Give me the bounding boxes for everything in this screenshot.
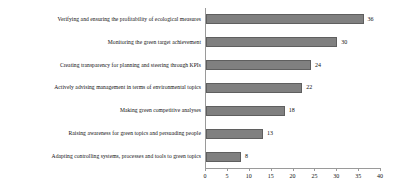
bar-group: 30 bbox=[206, 37, 347, 47]
bar-value-label: 18 bbox=[289, 107, 295, 114]
bar-group: 8 bbox=[206, 152, 248, 162]
table-row: Raising awareness for green topics and p… bbox=[0, 122, 400, 145]
x-axis-tick-label: 15 bbox=[268, 172, 274, 180]
bar-group: 18 bbox=[206, 106, 295, 116]
category-label: Adapting controlling systems, processes … bbox=[5, 153, 201, 160]
bar-value-label: 30 bbox=[341, 39, 347, 46]
bar bbox=[206, 14, 364, 24]
bar bbox=[206, 106, 285, 116]
bar-group: 22 bbox=[206, 83, 312, 93]
x-axis-tick-label: 5 bbox=[225, 172, 228, 180]
x-axis-tick bbox=[249, 168, 250, 171]
x-axis-tick bbox=[205, 168, 206, 171]
bar-value-label: 36 bbox=[368, 16, 374, 23]
x-axis-tick-label: 25 bbox=[311, 172, 317, 180]
x-axis-tick-label: 10 bbox=[246, 172, 252, 180]
x-axis-tick-label: 0 bbox=[204, 172, 207, 180]
x-axis-tick-label: 20 bbox=[290, 172, 296, 180]
bar-chart: Verifying and ensuring the profitability… bbox=[0, 0, 400, 195]
x-axis-tick-label: 40 bbox=[377, 172, 383, 180]
table-row: Creating transparency for planning and s… bbox=[0, 54, 400, 77]
x-axis-tick bbox=[293, 168, 294, 171]
table-row: Verifying and ensuring the profitability… bbox=[0, 8, 400, 31]
bar-value-label: 8 bbox=[245, 153, 248, 160]
category-label: Creating transparency for planning and s… bbox=[5, 62, 201, 69]
category-label: Verifying and ensuring the profitability… bbox=[5, 16, 201, 23]
bar-group: 13 bbox=[206, 129, 273, 139]
bar-group: 36 bbox=[206, 14, 374, 24]
bar-value-label: 24 bbox=[315, 62, 321, 69]
bar bbox=[206, 37, 337, 47]
x-axis-tick bbox=[358, 168, 359, 171]
x-axis-tick-label: 30 bbox=[333, 172, 339, 180]
x-axis-tick bbox=[336, 168, 337, 171]
bar-value-label: 13 bbox=[267, 130, 273, 137]
category-label: Monitoring the green target achievement bbox=[5, 39, 201, 46]
x-axis: 0510152025303540 bbox=[205, 168, 380, 194]
category-label: Actively advising management in terms of… bbox=[5, 84, 201, 91]
bar-group: 24 bbox=[206, 60, 321, 70]
category-label: Making green competitive analyses bbox=[5, 107, 201, 114]
table-row: Making green competitive analyses 18 bbox=[0, 99, 400, 122]
x-axis-tick bbox=[227, 168, 228, 171]
bar bbox=[206, 129, 263, 139]
bar bbox=[206, 83, 302, 93]
table-row: Adapting controlling systems, processes … bbox=[0, 145, 400, 168]
bar bbox=[206, 60, 311, 70]
x-axis-tick-label: 35 bbox=[355, 172, 361, 180]
category-label: Raising awareness for green topics and p… bbox=[5, 130, 201, 137]
bar bbox=[206, 152, 241, 162]
x-axis-tick bbox=[271, 168, 272, 171]
table-row: Actively advising management in terms of… bbox=[0, 77, 400, 100]
x-axis-tick bbox=[314, 168, 315, 171]
x-axis-tick bbox=[380, 168, 381, 171]
bar-value-label: 22 bbox=[306, 84, 312, 91]
table-row: Monitoring the green target achievement … bbox=[0, 31, 400, 54]
bar-rows: Verifying and ensuring the profitability… bbox=[0, 8, 400, 168]
